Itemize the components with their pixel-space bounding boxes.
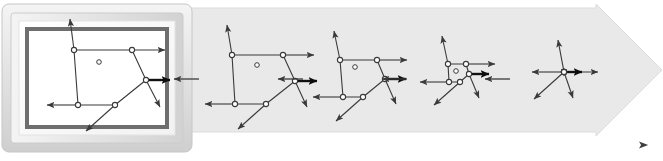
centroid-marker (353, 65, 358, 70)
vertex-v5 (446, 79, 451, 84)
figure-root (0, 0, 663, 161)
vertex-v1 (71, 47, 76, 52)
vertex-v2 (129, 47, 134, 52)
band-shape (186, 4, 662, 136)
vertex-v2 (374, 57, 379, 62)
vertex-v4 (112, 102, 117, 107)
background-band (186, 4, 662, 136)
vertex-v2 (280, 52, 285, 57)
vertex-v5 (340, 94, 345, 99)
centroid-marker (255, 63, 260, 68)
vertex-v1 (229, 52, 234, 57)
centroid-marker (97, 60, 102, 65)
vertex-v4 (263, 101, 268, 106)
vertex-v2 (463, 61, 468, 66)
vertex-v4 (457, 79, 462, 84)
picture-frame (2, 4, 192, 152)
vertex-v5 (232, 101, 237, 106)
vertex-v4 (360, 94, 365, 99)
vertex-v1 (337, 57, 342, 62)
vertex-v3 (466, 71, 471, 76)
centroid-marker (454, 69, 459, 74)
figure-canvas (0, 0, 663, 161)
vertex-v5 (75, 102, 80, 107)
vertex-v1 (445, 61, 450, 66)
vertex-v3 (143, 77, 148, 82)
vertex-v5 (561, 69, 566, 74)
